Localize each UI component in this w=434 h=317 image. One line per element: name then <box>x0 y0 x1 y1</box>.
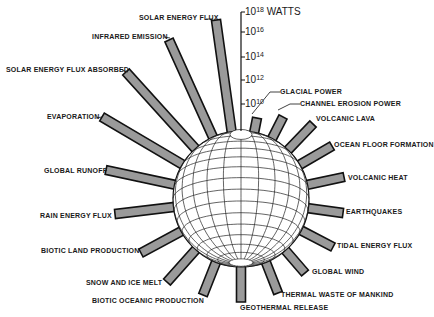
label-ocean-floor-formation: OCEAN FLOOR FORMATION <box>334 141 434 149</box>
label-global-wind: GLOBAL WIND <box>312 268 364 276</box>
label-volcanic-lava: VOLCANIC LAVA <box>316 115 375 123</box>
label-earthquakes: EARTHQUAKES <box>346 208 402 216</box>
label-tidal-energy-flux: TIDAL ENERGY FLUX <box>337 242 412 250</box>
axis-tick-1e10: 1010 <box>245 99 264 109</box>
label-evaporation: EVAPORATION <box>47 113 100 121</box>
bar-rain-energy-flux <box>115 202 181 219</box>
label-geothermal-release: GEOTHERMAL RELEASE <box>240 304 328 312</box>
label-infrared-emission: INFRARED EMISSION <box>92 33 168 41</box>
energy-flux-diagram: 1018 WATTS 1016 1014 1012 1010 SOLAR ENE… <box>0 0 434 317</box>
label-rain-energy-flux: RAIN ENERGY FLUX <box>40 212 112 220</box>
label-thermal-waste-of-mankind: THERMAL WASTE OF MANKIND <box>281 291 393 299</box>
label-biotic-land-production: BIOTIC LAND PRODUCTION <box>41 247 140 255</box>
diagram-canvas <box>0 0 434 317</box>
label-global-runoff: GLOBAL RUNOFF <box>44 167 107 175</box>
globe <box>173 129 309 267</box>
bar-global-runoff <box>105 166 181 191</box>
axis-tick-1e18: 1018 WATTS <box>245 7 301 17</box>
axis-tick-1e16: 1016 <box>245 27 264 37</box>
label-glacial-power: GLACIAL POWER <box>280 88 342 96</box>
axis-unit-label: WATTS <box>264 6 301 17</box>
axis-tick-1e14: 1014 <box>245 52 264 62</box>
label-channel-erosion-power: CHANNEL EROSION POWER <box>300 100 401 108</box>
label-snow-and-ice-melt: SNOW AND ICE MELT <box>86 279 162 287</box>
label-solar-energy-flux: SOLAR ENERGY FLUX <box>139 14 219 22</box>
label-solar-energy-flux-absorbed: SOLAR ENERGY FLUX ABSORBED <box>6 66 129 74</box>
label-volcanic-heat: VOLCANIC HEAT <box>348 174 408 182</box>
bar-solar-energy-flux <box>212 19 237 138</box>
axis-tick-1e12: 1012 <box>245 75 264 85</box>
label-biotic-oceanic-production: BIOTIC OCEANIC PRODUCTION <box>92 297 204 305</box>
